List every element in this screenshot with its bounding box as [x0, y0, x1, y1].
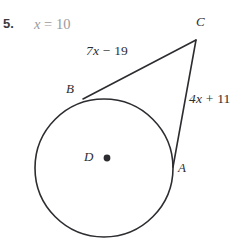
segment-ac-constant: 11 — [217, 91, 230, 106]
point-label-a: A — [178, 160, 186, 176]
segment-ac-operator: + — [206, 91, 214, 106]
point-label-d: D — [84, 149, 93, 165]
figure-drawing — [0, 0, 250, 243]
segment-bc-constant: 19 — [114, 43, 128, 58]
segment-ac-coefficient-variable: 4x — [189, 91, 202, 106]
point-label-b: B — [66, 81, 74, 97]
segment-label-ac: 4x + 11 — [189, 91, 231, 107]
geometry-problem-figure: 5. x = 10 7x − 19 4x + 11 C B A D — [0, 0, 250, 243]
circle-d — [35, 99, 173, 237]
center-point-dot — [104, 155, 111, 162]
point-label-c: C — [196, 14, 205, 30]
segment-bc-coefficient-variable: 7x — [86, 43, 99, 58]
segment-bc-operator: − — [103, 43, 111, 58]
segment-label-bc: 7x − 19 — [86, 43, 128, 59]
